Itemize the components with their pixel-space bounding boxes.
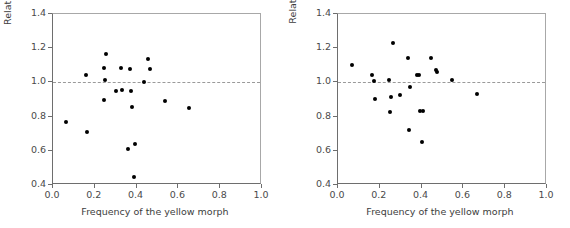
- y-axis-tick-label: 0.6: [301, 145, 331, 155]
- x-axis-tick: [546, 184, 547, 188]
- x-axis-tick: [337, 184, 338, 188]
- x-axis-tick-label: 0.6: [162, 190, 192, 200]
- x-axis-tick: [379, 184, 380, 188]
- data-point: [372, 79, 376, 83]
- data-point: [126, 147, 130, 151]
- data-point: [64, 120, 68, 124]
- y-axis-tick-label: 0.6: [16, 145, 46, 155]
- data-point: [388, 110, 392, 114]
- data-point: [148, 67, 152, 71]
- data-point: [373, 97, 377, 101]
- x-axis-tick-label: 0.8: [204, 190, 234, 200]
- data-point: [370, 73, 374, 77]
- y-axis-tick: [48, 47, 52, 48]
- data-point: [114, 89, 118, 93]
- y-axis-tick-label: 0.8: [16, 111, 46, 121]
- y-axis-tick-label: 0.8: [301, 111, 331, 121]
- y-axis-tick: [48, 81, 52, 82]
- data-point: [102, 66, 106, 70]
- x-axis-tick: [504, 184, 505, 188]
- x-axis-tick: [421, 184, 422, 188]
- data-point: [398, 93, 402, 97]
- data-point: [119, 66, 123, 70]
- y-axis-tick-label: 1.2: [301, 42, 331, 52]
- plot-area: [338, 14, 545, 183]
- data-point: [406, 56, 410, 60]
- data-point: [133, 142, 137, 146]
- data-point: [84, 73, 88, 77]
- data-point: [475, 92, 479, 96]
- data-point: [435, 70, 439, 74]
- data-point: [142, 80, 146, 84]
- data-point: [104, 52, 108, 56]
- x-axis-tick-label: 1.0: [246, 190, 276, 200]
- data-point: [129, 89, 133, 93]
- x-axis-tick-label: 0.2: [79, 190, 109, 200]
- y-axis-tick-label: 1.4: [301, 8, 331, 18]
- y-axis-tick-label: 1.2: [16, 42, 46, 52]
- data-point: [391, 41, 395, 45]
- data-point: [128, 67, 132, 71]
- y-axis-tick-label: 1.4: [16, 8, 46, 18]
- data-point: [103, 78, 107, 82]
- data-point: [132, 175, 136, 179]
- data-point: [389, 95, 393, 99]
- data-point: [146, 57, 150, 61]
- data-point: [429, 56, 433, 60]
- data-point: [417, 73, 421, 77]
- y-axis-tick: [48, 150, 52, 151]
- data-point: [407, 128, 411, 132]
- plot-frame: [337, 13, 546, 184]
- x-axis-tick: [219, 184, 220, 188]
- y-axis-tick: [333, 150, 337, 151]
- data-point: [187, 106, 191, 110]
- x-axis-tick-label: 0.2: [364, 190, 394, 200]
- data-point: [130, 105, 134, 109]
- plot-frame: [52, 13, 261, 184]
- data-point: [85, 130, 89, 134]
- x-axis-tick: [261, 184, 262, 188]
- panel-female-reproductive-success: Relative female reproductive success Fre…: [0, 0, 285, 228]
- x-axis-tick-label: 0.0: [37, 190, 67, 200]
- y-axis-tick: [48, 13, 52, 14]
- x-axis-tick-label: 0.0: [322, 190, 352, 200]
- y-axis-tick: [333, 13, 337, 14]
- plot-area: [53, 14, 260, 183]
- figure-two-panel-scatter: Relative female reproductive success Fre…: [0, 0, 570, 228]
- data-point: [421, 109, 425, 113]
- data-point: [408, 85, 412, 89]
- x-axis-tick: [136, 184, 137, 188]
- x-axis-title: Frequency of the yellow morph: [325, 206, 555, 217]
- y-axis-tick: [48, 116, 52, 117]
- data-point: [102, 98, 106, 102]
- x-axis-tick-label: 0.8: [489, 190, 519, 200]
- panel-male-reproductive-success: Relative male reproductive success Frequ…: [285, 0, 570, 228]
- y-axis-title: Relative male reproductive success: [287, 0, 299, 25]
- x-axis-tick: [462, 184, 463, 188]
- x-axis-tick-label: 1.0: [531, 190, 561, 200]
- y-axis-tick: [333, 81, 337, 82]
- reference-line-y-1: [53, 82, 260, 83]
- y-axis-tick-label: 1.0: [301, 76, 331, 86]
- x-axis-tick-label: 0.4: [406, 190, 436, 200]
- data-point: [387, 78, 391, 82]
- data-point: [120, 88, 124, 92]
- data-point: [350, 63, 354, 67]
- data-point: [420, 140, 424, 144]
- x-axis-title: Frequency of the yellow morph: [40, 206, 270, 217]
- x-axis-tick-label: 0.6: [447, 190, 477, 200]
- x-axis-tick: [94, 184, 95, 188]
- reference-line-y-1: [338, 82, 545, 83]
- x-axis-tick: [52, 184, 53, 188]
- y-axis-tick-label: 1.0: [16, 76, 46, 86]
- y-axis-title: Relative female reproductive success: [2, 0, 14, 25]
- y-axis-tick-label: 0.4: [16, 179, 46, 189]
- y-axis-tick-label: 0.4: [301, 179, 331, 189]
- y-axis-tick: [333, 47, 337, 48]
- x-axis-tick-label: 0.4: [121, 190, 151, 200]
- data-point: [163, 99, 167, 103]
- x-axis-tick: [177, 184, 178, 188]
- y-axis-tick: [333, 116, 337, 117]
